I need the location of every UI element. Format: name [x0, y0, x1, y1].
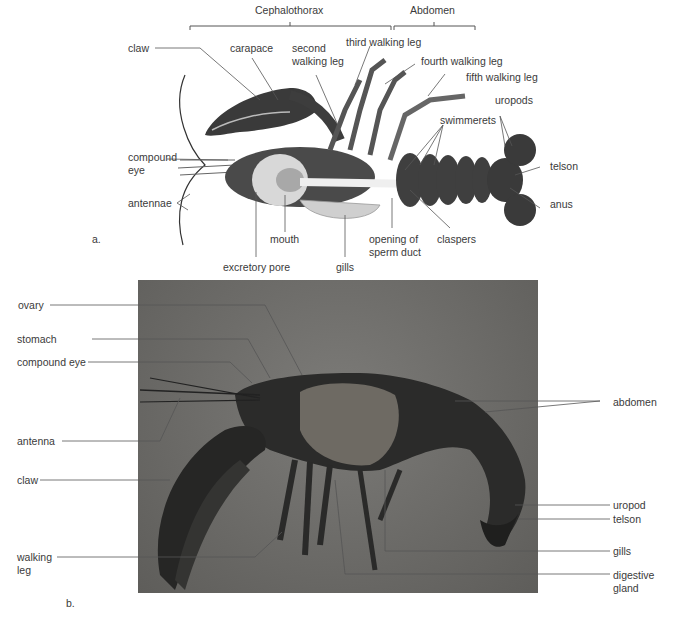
label-walking-leg: walking leg: [17, 551, 61, 577]
label-compound-eye-b: compound eye: [17, 356, 86, 369]
label-abdomen-b: abdomen: [613, 396, 657, 409]
crayfish-photo-overlay: [0, 0, 674, 617]
panel-letter-b: b.: [66, 597, 75, 609]
label-antenna: antenna: [17, 435, 55, 448]
label-digestive-gland: digestive gland: [613, 569, 663, 595]
crayfish-photo-silhouette: [140, 373, 525, 590]
label-ovary: ovary: [18, 299, 44, 312]
label-telson-b: telson: [613, 513, 641, 526]
label-uropod: uropod: [613, 499, 646, 512]
label-gills-b: gills: [613, 545, 631, 558]
label-stomach: stomach: [17, 333, 57, 346]
label-claw-b: claw: [17, 474, 38, 487]
